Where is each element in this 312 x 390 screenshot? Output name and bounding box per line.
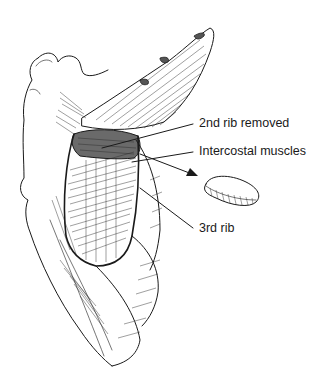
- upper-muscle: [56, 28, 214, 134]
- anatomy-drawing: [0, 0, 312, 390]
- leader-intercostal-muscles: [132, 152, 193, 162]
- label-intercostal-muscles: Intercostal muscles: [199, 145, 306, 158]
- leader-third-rib: [140, 188, 193, 228]
- label-second-rib-removed: 2nd rib removed: [199, 117, 289, 130]
- excised-rib-segment: [204, 176, 258, 205]
- label-third-rib: 3rd rib: [199, 222, 234, 235]
- rib-removed-window: [72, 130, 140, 159]
- anatomy-figure: 2nd rib removed Intercostal muscles 3rd …: [0, 0, 312, 390]
- excised-rib-arrow-shaft: [140, 154, 192, 174]
